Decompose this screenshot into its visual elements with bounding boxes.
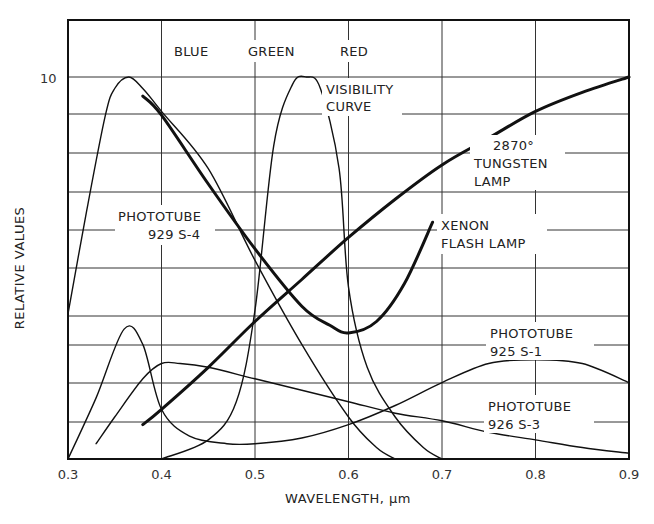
annotation-926-s3-line1: PHOTOTUBE (488, 399, 571, 414)
x-tick-label: 0.4 (151, 467, 172, 482)
x-tick-label: 0.7 (432, 467, 453, 482)
curve-2870-tungsten-lamp (143, 77, 629, 425)
annotation-926-s3-line2: 926 S-3 (488, 417, 540, 432)
annotation-tungsten-line3: LAMP (474, 174, 511, 189)
band-label-red: RED (340, 44, 368, 59)
x-tick-label: 0.5 (245, 467, 266, 482)
annotation-visibility-line1: VISIBILITY (326, 82, 394, 97)
band-label-blue: BLUE (174, 44, 208, 59)
annotation-visibility-line2: CURVE (326, 99, 372, 114)
annotation-xenon-line2: FLASH LAMP (441, 236, 526, 251)
annotation-tungsten-line2: TUNGSTEN (473, 156, 548, 171)
y-tick-10: 10 (40, 71, 57, 86)
y-axis-title: RELATIVE VALUES (12, 207, 27, 330)
annotation-xenon-line1: XENON (441, 218, 489, 233)
annotation-tungsten-line1: 2870° (493, 138, 534, 153)
spectral-chart: BLUE GREEN RED 10 0.30.40.50.60.70.80.9 … (0, 0, 654, 524)
annotation-925-s1-line2: 925 S-1 (490, 344, 542, 359)
x-tick-label: 0.9 (619, 467, 640, 482)
annotation-925-s1-line1: PHOTOTUBE (490, 326, 573, 341)
x-tick-label: 0.6 (338, 467, 359, 482)
x-tick-label: 0.3 (58, 467, 79, 482)
annotation-929-s4-line2: 929 S-4 (148, 227, 200, 242)
x-tick-label: 0.8 (525, 467, 546, 482)
x-tick-labels: 0.30.40.50.60.70.80.9 (58, 467, 640, 482)
x-axis-title: WAVELENGTH, μm (285, 491, 411, 506)
annotation-929-s4-line1: PHOTOTUBE (118, 209, 201, 224)
band-label-green: GREEN (248, 44, 295, 59)
